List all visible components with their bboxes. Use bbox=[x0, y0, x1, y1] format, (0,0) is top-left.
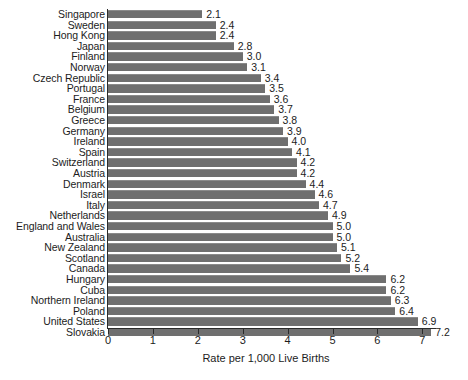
plot-area: Singapore2.1Sweden2.4Hong Kong2.4Japan2.… bbox=[0, 0, 468, 380]
bar-value-label: 7.2 bbox=[435, 326, 450, 338]
bar bbox=[108, 296, 391, 304]
bar bbox=[108, 10, 202, 18]
bar bbox=[108, 137, 288, 145]
bar bbox=[108, 74, 261, 82]
x-tick-label: 0 bbox=[98, 334, 118, 347]
x-tick-label: 1 bbox=[143, 334, 163, 347]
bar bbox=[108, 254, 341, 262]
bar bbox=[108, 317, 418, 325]
bar-row: Israel4.6 bbox=[0, 190, 468, 199]
bar bbox=[108, 275, 386, 283]
bar-row: Japan2.8 bbox=[0, 42, 468, 51]
bar-row: Northern Ireland6.3 bbox=[0, 296, 468, 305]
bar-row: Germany3.9 bbox=[0, 127, 468, 136]
x-tick-label: 3 bbox=[233, 334, 253, 347]
bar bbox=[108, 105, 274, 113]
bar bbox=[108, 84, 265, 92]
x-axis-line bbox=[107, 328, 436, 329]
x-tick-label: 5 bbox=[323, 334, 343, 347]
bar bbox=[108, 201, 319, 209]
x-axis-title: Rate per 1,000 Live Births bbox=[0, 352, 468, 364]
bar bbox=[108, 169, 297, 177]
bar bbox=[108, 52, 243, 60]
bar-value-label: 6.9 bbox=[422, 315, 437, 327]
bar bbox=[108, 42, 234, 50]
bar-value-label: 5.4 bbox=[354, 262, 369, 274]
bar bbox=[108, 116, 279, 124]
bar bbox=[108, 243, 337, 251]
bar-row: Denmark4.4 bbox=[0, 180, 468, 189]
bar bbox=[108, 211, 328, 219]
bar-chart: Singapore2.1Sweden2.4Hong Kong2.4Japan2.… bbox=[0, 0, 468, 380]
bar-row: Portugal3.5 bbox=[0, 84, 468, 93]
bar bbox=[108, 21, 216, 29]
bar bbox=[108, 180, 306, 188]
bar bbox=[108, 158, 297, 166]
bar-row: Ireland4.0 bbox=[0, 137, 468, 146]
bar-value-label: 6.4 bbox=[399, 305, 414, 317]
bar-value-label: 2.4 bbox=[220, 29, 235, 41]
y-axis-line bbox=[107, 9, 108, 329]
bar bbox=[108, 148, 292, 156]
bar-value-label: 2.1 bbox=[206, 8, 221, 20]
x-tick-label: 2 bbox=[188, 334, 208, 347]
bar bbox=[108, 31, 216, 39]
x-tick-label: 6 bbox=[367, 334, 387, 347]
bar bbox=[108, 286, 386, 294]
bar bbox=[108, 127, 283, 135]
bar bbox=[108, 222, 333, 230]
bar bbox=[108, 95, 270, 103]
bar bbox=[108, 63, 247, 71]
x-axis-title-text: Rate per 1,000 Live Births bbox=[138, 352, 329, 364]
x-tick-label: 4 bbox=[278, 334, 298, 347]
bar-value-label: 3.1 bbox=[251, 61, 266, 73]
bar-row: Switzerland4.2 bbox=[0, 158, 468, 167]
bar bbox=[108, 307, 395, 315]
x-tick-label: 7 bbox=[412, 334, 432, 347]
bar bbox=[108, 190, 315, 198]
bar bbox=[108, 233, 333, 241]
bar-row: Hong Kong2.4 bbox=[0, 31, 468, 40]
bar bbox=[108, 264, 350, 272]
